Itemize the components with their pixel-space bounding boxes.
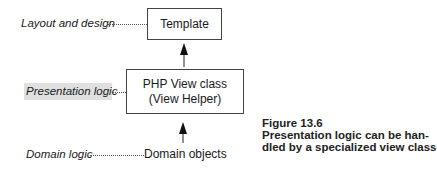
arrow-up-icon <box>180 43 188 67</box>
arrow-up-icon <box>179 122 187 143</box>
caption-line-1: Presentation logic can be han- <box>262 130 429 142</box>
caption-line-2: dled by a specialized view class <box>262 142 437 154</box>
figure-number: Figure 13.6 <box>262 118 323 130</box>
